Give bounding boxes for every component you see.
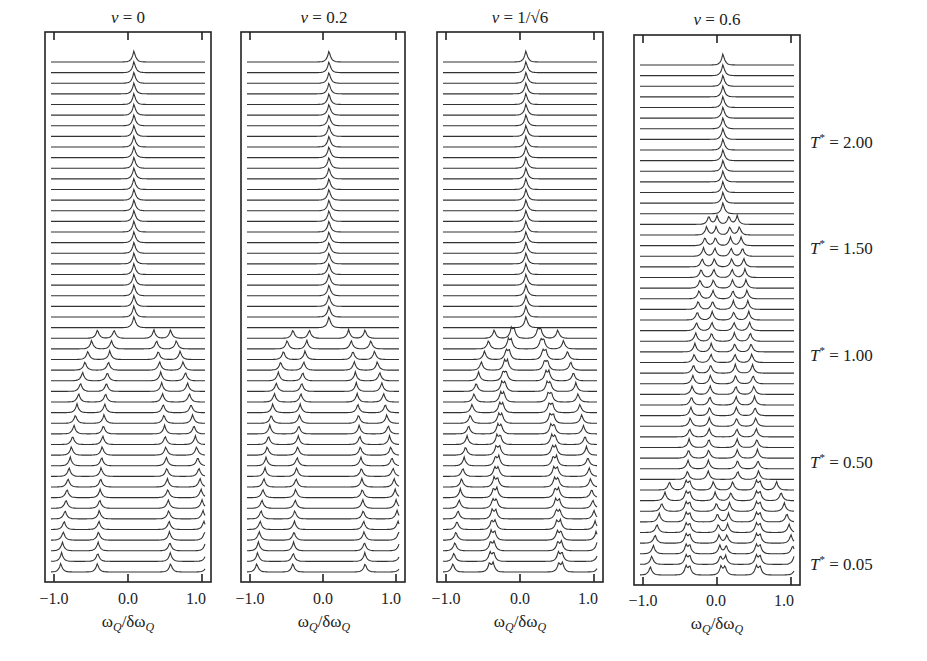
spectrum-trace	[640, 171, 794, 182]
spectrum-trace	[51, 126, 205, 137]
omega: ω	[102, 612, 113, 631]
spectrum-trace	[640, 76, 794, 87]
temperature-label-1.00: T* = 1.00	[810, 344, 873, 366]
omega: ω	[691, 614, 702, 633]
spectrum-trace	[51, 425, 205, 434]
spectrum-trace	[247, 457, 399, 466]
spectrum-trace	[51, 274, 205, 285]
spectrum-trace	[443, 83, 597, 94]
spectrum-trace	[640, 333, 794, 342]
spectrum-trace	[247, 158, 399, 168]
spectrum-trace	[51, 253, 205, 264]
temperature-label-1.50: T* = 1.50	[810, 237, 873, 259]
spectrum-trace	[51, 468, 205, 477]
spectrum-trace	[443, 126, 597, 137]
spectrum-trace	[640, 407, 794, 416]
x-tick-label: 1.0	[774, 592, 794, 610]
spectrum-trace	[247, 243, 399, 253]
spectrum-trace	[247, 425, 399, 434]
x-tick-label: 1.0	[578, 590, 598, 608]
nu-value: 0.6	[719, 10, 740, 29]
sub-q: Q	[146, 620, 155, 634]
spectrum-trace	[443, 264, 597, 275]
spectrum-trace	[443, 306, 597, 317]
spectrum-trace	[51, 532, 205, 541]
spectrum-trace	[443, 51, 597, 62]
spectrum-trace	[51, 394, 205, 402]
spectrum-trace	[443, 104, 597, 115]
panel-1	[241, 32, 405, 582]
spectrum-trace	[51, 189, 205, 200]
nu-value: 0	[137, 8, 146, 27]
nu-value: 1/√6	[517, 8, 548, 27]
spectrum-trace	[247, 264, 399, 274]
spectrum-trace	[443, 466, 597, 476]
x-tick-label: −1.0	[628, 592, 657, 610]
spectrum-trace	[640, 248, 794, 257]
spectrum-trace	[443, 317, 597, 328]
spectrum-trace	[640, 97, 794, 108]
panel-title-nu-1-over-sqrt6: ν = 1/√6	[437, 8, 603, 28]
spectrum-trace	[247, 521, 399, 529]
spectrum-trace	[640, 129, 794, 140]
spectrum-trace	[51, 200, 205, 211]
spectrum-trace	[247, 200, 399, 210]
spectrum-trace	[247, 115, 399, 125]
spectrum-trace	[247, 372, 399, 381]
spectrum-trace	[247, 362, 399, 371]
spectrum-trace	[247, 307, 399, 317]
x-tick-label: 0.0	[706, 592, 726, 610]
temperature-label-0.50: T* = 0.50	[810, 451, 873, 473]
spectrum-trace	[640, 375, 794, 383]
spectrum-trace	[247, 62, 399, 72]
sub-q: Q	[505, 620, 514, 634]
spectrum-trace	[247, 254, 399, 264]
spectrum-trace	[640, 150, 794, 161]
spectrum-trace	[640, 449, 794, 458]
spectrum-trace	[51, 94, 205, 105]
spectrum-trace	[51, 341, 205, 349]
x-tick-label: 1.0	[186, 590, 206, 608]
spectrum-trace	[443, 147, 597, 158]
spectrum-trace	[640, 364, 794, 373]
spectrum-trace	[51, 500, 205, 509]
spectrum-trace	[640, 280, 794, 289]
spectrum-trace	[247, 169, 399, 179]
spectrum-trace	[443, 487, 597, 498]
spectrum-trace	[247, 190, 399, 200]
spectrum-trace	[443, 158, 597, 169]
spectrum-trace	[443, 455, 597, 466]
spectrum-trace	[247, 105, 399, 115]
spectrum-trace	[51, 489, 205, 498]
spectrum-trace	[51, 351, 205, 360]
spectrum-trace	[51, 158, 205, 169]
panel-title-nu-0: ν = 0	[45, 8, 211, 28]
spectrum-trace	[443, 179, 597, 190]
spectrum-trace	[247, 404, 399, 413]
spectrum-trace	[247, 211, 399, 221]
spectrum-trace	[51, 330, 205, 339]
spectrum-trace	[247, 52, 399, 62]
spectrum-trace	[51, 510, 205, 519]
equals: =	[701, 10, 719, 29]
spectrum-trace	[247, 179, 399, 189]
spectrum-trace	[640, 107, 794, 118]
spectrum-trace	[443, 562, 597, 572]
spectrum-trace	[247, 564, 399, 572]
spectrum-trace	[247, 222, 399, 232]
spectrum-trace	[247, 94, 399, 104]
spectrum-trace	[443, 62, 597, 73]
spectrum-trace	[443, 285, 597, 296]
t-value: 2.00	[843, 133, 873, 152]
panel-title-nu-0.2: ν = 0.2	[241, 8, 407, 28]
temperature-label-0.05: T* = 0.05	[810, 553, 873, 575]
panel-title-nu-0.6: ν = 0.6	[634, 10, 800, 30]
spectrum-trace	[443, 381, 597, 392]
spectrum-trace	[640, 386, 794, 395]
spectrum-trace	[247, 317, 399, 327]
spectrum-trace	[640, 544, 794, 554]
spectrum-trace	[443, 338, 597, 349]
spectrum-trace	[51, 232, 205, 243]
spectrum-trace	[247, 285, 399, 295]
spectrum-trace	[443, 221, 597, 232]
